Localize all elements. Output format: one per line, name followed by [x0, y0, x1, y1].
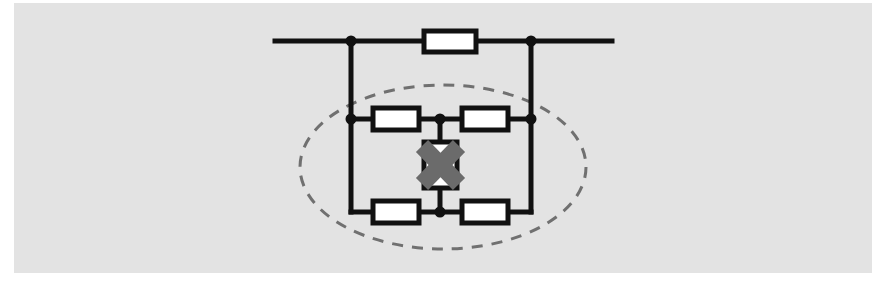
resistor-bypass: [424, 31, 476, 52]
junction-dot-node-d: [526, 114, 537, 125]
figure-root: [0, 0, 887, 291]
resistor-bridge-top-left: [373, 108, 419, 130]
junction-dot-node-c: [346, 114, 357, 125]
antiparallel-diode-pair: [422, 142, 459, 188]
resistor-bridge-bottom-right: [462, 201, 508, 223]
circuit-schematic: [0, 0, 887, 291]
junction-dot-node-bot-mid: [435, 207, 446, 218]
resistor-bridge-bottom-left: [373, 201, 419, 223]
resistor-bridge-top-right: [462, 108, 508, 130]
junction-dot-node-top-mid: [435, 114, 446, 125]
junction-dot-node-b: [526, 36, 537, 47]
junction-dot-node-a: [346, 36, 357, 47]
